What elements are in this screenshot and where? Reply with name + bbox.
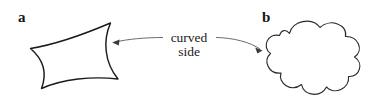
figure-container: a curved side b bbox=[0, 0, 375, 103]
panel-label-a: a bbox=[18, 9, 26, 25]
scalloped-cloud-shape bbox=[266, 21, 360, 94]
figure-canvas: a curved side b bbox=[0, 0, 375, 103]
arrow-head-left bbox=[112, 39, 119, 45]
annotation-line-1: curved bbox=[171, 30, 208, 45]
annotation-line-2: side bbox=[178, 44, 200, 59]
concave-quadrilateral-shape bbox=[31, 23, 119, 89]
panel-label-b: b bbox=[262, 9, 270, 25]
leader-line-left bbox=[115, 38, 164, 43]
leader-line-right bbox=[216, 38, 260, 50]
